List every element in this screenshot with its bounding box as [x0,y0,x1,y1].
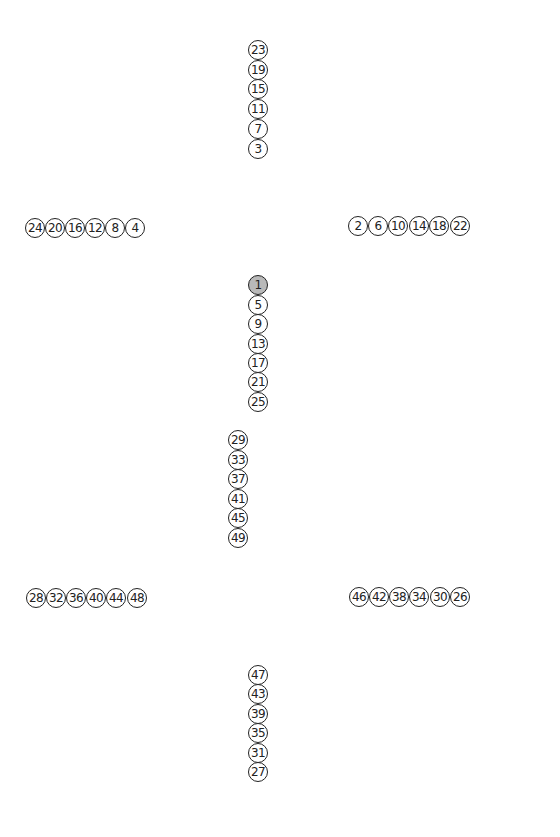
node-31[interactable]: 31 [248,743,268,763]
node-label: 32 [49,589,63,607]
node-label: 13 [251,335,265,353]
node-label: 15 [251,80,265,98]
node-43[interactable]: 43 [248,684,268,704]
node-label: 12 [88,219,102,237]
node-label: 3 [254,140,261,158]
node-label: 43 [251,685,265,703]
node-label: 47 [251,666,265,684]
node-label: 36 [69,589,83,607]
node-label: 4 [131,219,138,237]
node-25[interactable]: 25 [248,392,268,412]
node-label: 27 [251,763,265,781]
node-40[interactable]: 40 [86,588,106,608]
node-26[interactable]: 26 [450,587,470,607]
node-5[interactable]: 5 [248,295,268,315]
diagram-canvas: 2319151173242016128426101418221591317212… [0,0,560,837]
node-2[interactable]: 2 [348,216,368,236]
node-21[interactable]: 21 [248,372,268,392]
node-label: 6 [374,217,381,235]
node-16[interactable]: 16 [65,218,85,238]
node-label: 40 [89,589,103,607]
node-label: 28 [29,589,43,607]
node-label: 35 [251,724,265,742]
node-label: 38 [392,588,406,606]
node-45[interactable]: 45 [228,508,248,528]
node-4[interactable]: 4 [125,218,145,238]
node-9[interactable]: 9 [248,314,268,334]
node-label: 49 [231,529,245,547]
node-24[interactable]: 24 [25,218,45,238]
node-36[interactable]: 36 [66,588,86,608]
node-label: 14 [412,217,426,235]
node-label: 24 [28,219,42,237]
node-label: 9 [254,315,261,333]
node-label: 25 [251,393,265,411]
node-13[interactable]: 13 [248,334,268,354]
node-33[interactable]: 33 [228,450,248,470]
node-label: 5 [254,296,261,314]
node-label: 46 [352,588,366,606]
node-label: 22 [453,217,467,235]
node-20[interactable]: 20 [45,218,65,238]
node-34[interactable]: 34 [409,587,429,607]
node-37[interactable]: 37 [228,469,248,489]
node-label: 19 [251,61,265,79]
node-label: 48 [130,589,144,607]
node-38[interactable]: 38 [389,587,409,607]
node-48[interactable]: 48 [127,588,147,608]
node-label: 7 [254,120,261,138]
node-27[interactable]: 27 [248,762,268,782]
node-label: 34 [412,588,426,606]
node-label: 37 [231,470,245,488]
node-41[interactable]: 41 [228,489,248,509]
node-label: 45 [231,509,245,527]
node-49[interactable]: 49 [228,528,248,548]
node-label: 18 [432,217,446,235]
node-label: 33 [231,451,245,469]
node-label: 8 [111,219,118,237]
node-32[interactable]: 32 [46,588,66,608]
node-label: 31 [251,744,265,762]
node-label: 16 [68,219,82,237]
node-19[interactable]: 19 [248,60,268,80]
node-6[interactable]: 6 [368,216,388,236]
node-label: 20 [48,219,62,237]
node-10[interactable]: 10 [388,216,408,236]
node-label: 1 [254,276,261,294]
node-29[interactable]: 29 [228,430,248,450]
node-label: 44 [109,589,123,607]
node-15[interactable]: 15 [248,79,268,99]
node-3[interactable]: 3 [248,139,268,159]
node-8[interactable]: 8 [105,218,125,238]
node-14[interactable]: 14 [409,216,429,236]
node-46[interactable]: 46 [349,587,369,607]
node-42[interactable]: 42 [369,587,389,607]
node-label: 21 [251,373,265,391]
node-12[interactable]: 12 [85,218,105,238]
node-30[interactable]: 30 [430,587,450,607]
node-11[interactable]: 11 [248,99,268,119]
node-label: 10 [391,217,405,235]
node-7[interactable]: 7 [248,119,268,139]
node-label: 23 [251,41,265,59]
node-44[interactable]: 44 [106,588,126,608]
node-label: 17 [251,354,265,372]
node-28[interactable]: 28 [26,588,46,608]
node-18[interactable]: 18 [429,216,449,236]
node-label: 11 [251,100,265,118]
node-35[interactable]: 35 [248,723,268,743]
node-39[interactable]: 39 [248,704,268,724]
node-1[interactable]: 1 [248,275,268,295]
node-label: 39 [251,705,265,723]
node-label: 30 [433,588,447,606]
node-label: 26 [453,588,467,606]
node-47[interactable]: 47 [248,665,268,685]
node-17[interactable]: 17 [248,353,268,373]
node-label: 42 [372,588,386,606]
node-label: 41 [231,490,245,508]
node-22[interactable]: 22 [450,216,470,236]
node-23[interactable]: 23 [248,40,268,60]
node-label: 29 [231,431,245,449]
node-label: 2 [354,217,361,235]
